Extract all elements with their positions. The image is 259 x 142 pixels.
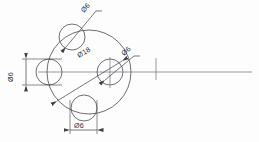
bolt-circle-dimension-label: Ø18: [75, 45, 92, 60]
cad-drawing-svg: Ø18 Ø6 Ø6 Ø6 Ø6: [0, 0, 259, 142]
bolt-circle-dimension-line: [57, 61, 122, 101]
hole-circle-bottom: [71, 95, 97, 121]
hole-right-leader-line: [105, 56, 134, 80]
hole-circle-top: [59, 24, 85, 50]
hole-top-dimension-label: Ø6: [79, 1, 92, 14]
hole-bottom-dimension-label: Ø6: [74, 121, 84, 130]
hole-right-dimension-label: Ø6: [119, 44, 132, 57]
technical-drawing-canvas: Ø18 Ø6 Ø6 Ø6 Ø6: [0, 0, 259, 142]
hole-top-leader-line: [66, 11, 96, 47]
hole-left-dimension-label: Ø6: [6, 72, 15, 82]
